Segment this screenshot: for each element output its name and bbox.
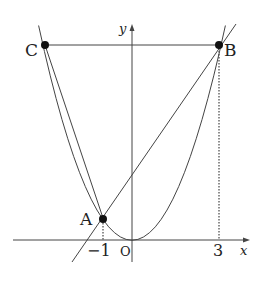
diagram-canvas: C B A y x O −1 3 bbox=[0, 0, 269, 282]
point-a-label: A bbox=[79, 209, 93, 229]
segment-ca bbox=[45, 45, 103, 218]
y-axis-label: y bbox=[118, 21, 127, 36]
line-ab bbox=[72, 24, 236, 262]
point-b-marker bbox=[215, 41, 223, 49]
point-b-label: B bbox=[224, 40, 237, 60]
x-axis-label: x bbox=[240, 243, 248, 258]
point-c-label: C bbox=[25, 40, 38, 60]
point-a-marker bbox=[99, 215, 107, 223]
x-axis-arrow-icon bbox=[243, 238, 250, 243]
tick-label-neg1: −1 bbox=[87, 241, 111, 260]
point-c-marker bbox=[41, 41, 49, 49]
tick-label-3: 3 bbox=[213, 241, 223, 260]
y-axis-arrow-icon bbox=[130, 24, 135, 31]
origin-label: O bbox=[120, 244, 131, 259]
